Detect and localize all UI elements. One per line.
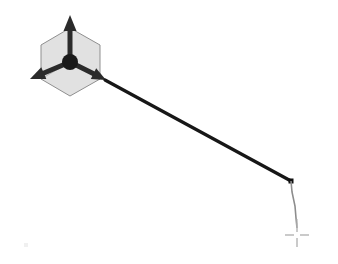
viewport-canvas[interactable]	[0, 0, 338, 264]
scan-artifact-speck	[24, 243, 28, 247]
scene-svg	[0, 0, 338, 264]
gizmo-center-hub[interactable]	[62, 54, 78, 70]
